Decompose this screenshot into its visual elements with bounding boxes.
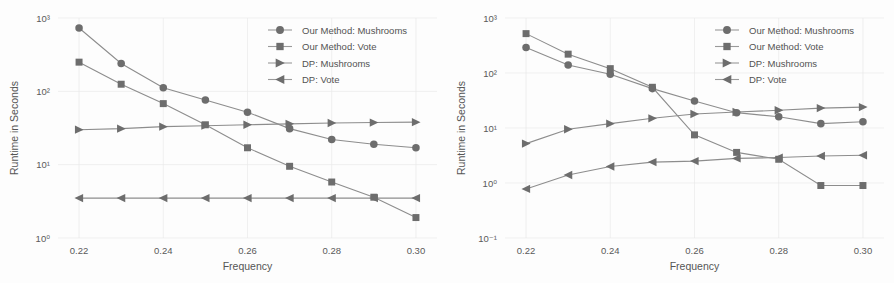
- data-point-square-icon: [733, 149, 740, 156]
- data-point-circle-icon: [412, 144, 420, 152]
- x-tick-label: 0.22: [517, 245, 536, 256]
- data-point-square-icon: [607, 65, 614, 72]
- data-point-square-icon: [859, 182, 866, 189]
- data-point-triangle-right-icon: [817, 104, 826, 112]
- data-point-triangle-left-icon: [816, 152, 825, 160]
- y-tick-label: 10¹: [36, 159, 50, 170]
- left-chart-canvas: 10⁰10¹10²10³0.220.240.260.280.30Frequenc…: [0, 0, 447, 283]
- data-point-triangle-right-icon: [564, 125, 573, 133]
- data-point-circle-icon: [370, 140, 378, 148]
- data-point-circle-icon: [817, 120, 825, 128]
- y-tick-label: 10³: [483, 13, 497, 24]
- legend: Our Method: MushroomsOur Method: VoteDP:…: [268, 25, 407, 86]
- legend-square-icon: [723, 43, 730, 50]
- data-point-circle-icon: [75, 24, 83, 32]
- data-point-triangle-left-icon: [648, 158, 657, 166]
- data-point-circle-icon: [691, 97, 699, 105]
- y-tick-label: 10²: [36, 86, 50, 97]
- data-point-square-icon: [160, 100, 167, 107]
- legend-square-icon: [276, 43, 283, 50]
- y-tick-label: 10⁰: [483, 178, 498, 189]
- grid-lines: [58, 18, 437, 238]
- x-tick-label: 0.24: [601, 245, 620, 256]
- data-point-circle-icon: [328, 136, 336, 144]
- data-point-circle-icon: [775, 113, 783, 121]
- y-tick-label: 10⁻¹: [478, 233, 497, 244]
- data-point-triangle-right-icon: [117, 124, 126, 132]
- figure-dual-runtime-charts: 10⁰10¹10²10³0.220.240.260.280.30Frequenc…: [0, 0, 894, 283]
- legend-circle-icon: [276, 26, 284, 34]
- x-tick-label: 0.26: [238, 245, 257, 256]
- x-tick-label: 0.28: [769, 245, 788, 256]
- x-axis-title: Frequency: [223, 260, 273, 272]
- data-point-square-icon: [691, 131, 698, 138]
- legend-label: Our Method: Vote: [749, 41, 823, 52]
- data-point-triangle-right-icon: [370, 118, 379, 126]
- legend-label: DP: Vote: [749, 74, 787, 85]
- legend-triangle-left-icon: [275, 75, 284, 84]
- y-axis-title: Runtime in Seconds: [455, 81, 467, 175]
- legend-triangle-right-icon: [276, 59, 285, 68]
- legend-label: Our Method: Vote: [302, 41, 376, 52]
- x-tick-label: 0.26: [685, 245, 704, 256]
- legend-label: DP: Vote: [302, 74, 340, 85]
- y-tick-label: 10¹: [483, 123, 497, 134]
- data-point-square-icon: [817, 182, 824, 189]
- data-point-circle-icon: [117, 60, 125, 68]
- data-point-square-icon: [328, 179, 335, 186]
- data-point-triangle-left-icon: [564, 171, 573, 179]
- data-point-triangle-left-icon: [117, 194, 126, 202]
- data-point-square-icon: [523, 30, 530, 37]
- data-point-circle-icon: [202, 96, 210, 104]
- chart-panel-left: 10⁰10¹10²10³0.220.240.260.280.30Frequenc…: [0, 0, 447, 283]
- x-axis-ticks: 0.220.240.260.280.30: [70, 245, 425, 256]
- legend-label: Our Method: Mushrooms: [302, 25, 407, 36]
- data-point-square-icon: [76, 59, 83, 66]
- x-axis-ticks: 0.220.240.260.280.30: [517, 245, 872, 256]
- y-axis-ticks: 10⁻¹10⁰10¹10²10³: [478, 13, 497, 244]
- x-tick-label: 0.28: [322, 245, 341, 256]
- legend-triangle-right-icon: [723, 59, 732, 68]
- data-point-square-icon: [244, 144, 251, 151]
- legend-label: DP: Mushrooms: [749, 58, 817, 69]
- chart-panel-right: 10⁻¹10⁰10¹10²10³0.220.240.260.280.30Freq…: [447, 0, 894, 283]
- y-axis-ticks: 10⁰10¹10²10³: [36, 13, 51, 244]
- data-point-square-icon: [565, 51, 572, 58]
- x-axis-title: Frequency: [670, 260, 720, 272]
- data-point-circle-icon: [522, 44, 530, 52]
- legend-label: DP: Mushrooms: [302, 58, 370, 69]
- data-point-circle-icon: [244, 108, 252, 116]
- x-tick-label: 0.30: [407, 245, 426, 256]
- legend-circle-icon: [723, 26, 731, 34]
- data-point-square-icon: [118, 81, 125, 88]
- y-tick-label: 10²: [483, 68, 497, 79]
- y-tick-label: 10⁰: [36, 233, 51, 244]
- data-point-circle-icon: [859, 118, 867, 126]
- data-point-circle-icon: [160, 84, 168, 92]
- x-tick-label: 0.22: [70, 245, 89, 256]
- data-point-triangle-right-icon: [648, 114, 657, 122]
- y-axis-title: Runtime in Seconds: [8, 81, 20, 175]
- legend-triangle-left-icon: [722, 75, 731, 84]
- legend-label: Our Method: Mushrooms: [749, 25, 854, 36]
- y-tick-label: 10³: [36, 13, 50, 24]
- data-point-square-icon: [412, 214, 419, 221]
- data-point-circle-icon: [564, 61, 572, 69]
- x-tick-label: 0.24: [154, 245, 173, 256]
- legend: Our Method: MushroomsOur Method: VoteDP:…: [715, 25, 854, 86]
- data-point-square-icon: [649, 84, 656, 91]
- data-point-triangle-left-icon: [285, 194, 294, 202]
- x-tick-label: 0.30: [854, 245, 873, 256]
- right-chart-canvas: 10⁻¹10⁰10¹10²10³0.220.240.260.280.30Freq…: [447, 0, 894, 283]
- data-point-triangle-left-icon: [201, 194, 210, 202]
- data-point-square-icon: [286, 163, 293, 170]
